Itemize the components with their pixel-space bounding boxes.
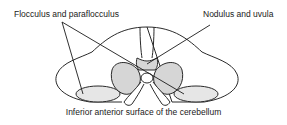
diagram-caption: Inferior anterior surface of the cerebel… bbox=[0, 108, 287, 117]
flocculus-right bbox=[174, 86, 218, 102]
leader-line-nodulus bbox=[147, 25, 210, 64]
